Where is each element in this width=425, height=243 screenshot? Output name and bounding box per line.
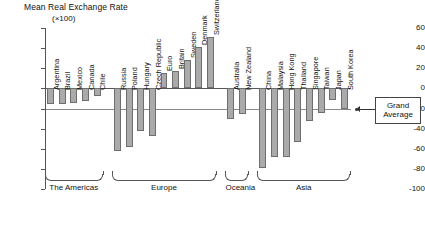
y-tick-label: -40: [399, 125, 425, 133]
y-tick-label: -100: [399, 185, 425, 193]
bar: [70, 88, 77, 103]
bar-label: Canada: [88, 65, 95, 91]
region-label: Oceania: [225, 183, 248, 192]
region-brace-nub: [350, 171, 351, 175]
y-tick-mark: [41, 129, 45, 130]
region-brace-nub: [103, 171, 104, 175]
y-tick-label: -80: [399, 165, 425, 173]
y-tick-label: 20: [399, 64, 425, 72]
region-label: Asia: [257, 183, 349, 192]
bar-label: Euro: [166, 56, 173, 71]
bar: [137, 88, 144, 130]
grand-average-line1: Grand: [380, 101, 416, 111]
bar-label: Russia: [120, 68, 127, 90]
bar-label: Chile: [99, 74, 106, 91]
y-tick-mark: [41, 149, 45, 150]
bar: [59, 88, 66, 104]
bar: [47, 88, 54, 104]
chart-title: Mean Real Exchange Rate: [24, 2, 128, 12]
region-brace: [225, 174, 248, 181]
y-tick-label: -60: [399, 145, 425, 153]
chart-subtitle: (×100): [52, 14, 75, 23]
region-brace-nub: [248, 171, 249, 175]
grand-average-line2: Average: [380, 110, 416, 120]
y-tick-label: 0: [399, 84, 425, 92]
region-brace: [112, 174, 216, 181]
bar-label: Mexico: [76, 67, 83, 90]
bar: [126, 88, 133, 146]
bar: [283, 88, 290, 156]
region-brace: [45, 174, 103, 181]
bar: [239, 88, 246, 113]
bar: [195, 47, 202, 88]
bar: [207, 37, 214, 88]
bar-label: Taiwan: [323, 68, 330, 91]
bar-label: Hungary: [143, 63, 150, 91]
bar-label: Singapore: [312, 57, 319, 90]
y-tick-mark: [41, 169, 45, 170]
region-brace: [257, 174, 349, 181]
region-brace-nub: [257, 171, 258, 175]
bar-label: South Korea: [347, 50, 354, 91]
bar: [306, 88, 313, 120]
bar: [227, 88, 234, 118]
bar-label: Thailand: [300, 62, 307, 90]
bar-label: Poland: [131, 68, 138, 91]
bar: [341, 88, 348, 108]
bar-label: New Zealand: [245, 47, 252, 90]
y-tick-mark: [41, 109, 45, 110]
region-label: Europe: [112, 183, 216, 192]
chart-root: Mean Real Exchange Rate (×100) 6040200-2…: [0, 0, 425, 243]
bar: [259, 88, 266, 167]
bar-label: Switzerland: [213, 0, 220, 35]
bar: [149, 88, 156, 135]
bar: [318, 88, 325, 112]
bar-label: Malaysia: [277, 62, 284, 91]
region-brace-nub: [225, 171, 226, 175]
y-tick-mark: [41, 68, 45, 69]
bar: [184, 60, 191, 88]
grand-average-callout: Grand Average: [375, 97, 421, 124]
bar: [329, 88, 336, 100]
bar: [271, 88, 278, 156]
region-label: The Americas: [45, 183, 103, 192]
bar: [172, 71, 179, 88]
plot-area: ArgentinaBrazilMexicoCanadaChileRussiaPo…: [46, 28, 351, 189]
region-brace-nub: [45, 171, 46, 175]
bar: [114, 88, 121, 150]
region-brace-nub: [216, 171, 217, 175]
y-tick-mark: [41, 28, 45, 29]
bar-label: Australia: [233, 62, 240, 90]
bar: [161, 73, 168, 88]
grand-average-anchor-dot: [355, 108, 358, 111]
bar-label: Argentina: [53, 59, 60, 90]
y-tick-label: 40: [399, 44, 425, 52]
bar-label: Hong Kong: [288, 54, 295, 91]
y-tick-mark: [41, 88, 45, 89]
y-tick-mark: [41, 48, 45, 49]
y-tick-label: 60: [399, 24, 425, 32]
bar: [294, 88, 301, 141]
bar: [82, 88, 89, 101]
region-brace-nub: [112, 171, 113, 175]
